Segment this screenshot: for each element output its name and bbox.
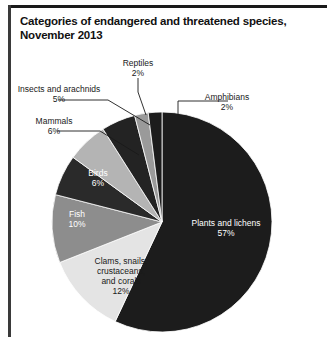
slice-label-amphibians: Amphibians 2% bbox=[185, 92, 269, 112]
figure-panel: Categories of endangered and threatened … bbox=[0, 0, 327, 337]
slice-label-clams: Clams, snails, crustaceans, and corals 1… bbox=[72, 256, 170, 296]
slice-label-mammals: Mammals 6% bbox=[10, 116, 98, 136]
slice-label-birds: Birds 6% bbox=[74, 168, 122, 188]
pie-chart: Insects and arachnids 5% Mammals 6% Rept… bbox=[0, 0, 327, 337]
slice-label-plants: Plants and lichens 57% bbox=[178, 218, 274, 238]
slice-label-insects: Insects and arachnids 5% bbox=[4, 84, 114, 104]
slice-label-reptiles: Reptiles 2% bbox=[107, 58, 169, 78]
leader-line-reptiles bbox=[138, 78, 146, 115]
slice-label-fish: Fish 10% bbox=[55, 209, 99, 229]
